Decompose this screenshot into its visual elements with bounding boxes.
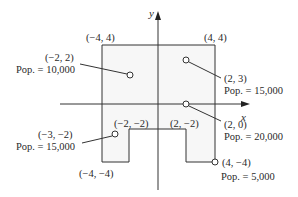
city-coord: (2, 3) bbox=[224, 73, 247, 85]
city-coord: (−2, 2) bbox=[45, 52, 74, 64]
corner-label-bottom-left: (−4, −4) bbox=[79, 168, 114, 180]
city-marker-icon bbox=[212, 159, 218, 165]
city-pop: Pop. = 10,000 bbox=[16, 64, 75, 75]
city-pop: Pop. = 15,000 bbox=[16, 141, 75, 152]
y-axis-label: y bbox=[148, 7, 154, 19]
city-coord: (4, −4) bbox=[222, 157, 251, 169]
city-pop: Pop. = 5,000 bbox=[221, 171, 275, 182]
corner-label-notch-left: (−2, −2) bbox=[114, 118, 149, 130]
city-pop: Pop. = 20,000 bbox=[224, 131, 283, 142]
region-diagram: x y (−4, 4) (4, 4) (−4, −4) (−2, −2) (2,… bbox=[0, 0, 298, 197]
y-axis-arrow-icon bbox=[155, 11, 161, 20]
city-marker-icon bbox=[183, 57, 189, 63]
city-marker-icon bbox=[127, 72, 133, 78]
city-coord: (−3, −2) bbox=[38, 129, 73, 141]
corner-label-top-right: (4, 4) bbox=[204, 32, 227, 44]
city-marker-icon bbox=[112, 131, 118, 137]
x-axis-arrow-icon bbox=[241, 101, 250, 107]
city-marker-icon bbox=[183, 101, 189, 107]
city-coord: (2, 0) bbox=[224, 119, 247, 131]
city-pop: Pop. = 15,000 bbox=[224, 85, 283, 96]
corner-label-notch-right: (2, −2) bbox=[170, 118, 199, 130]
corner-label-top-left: (−4, 4) bbox=[86, 32, 115, 44]
